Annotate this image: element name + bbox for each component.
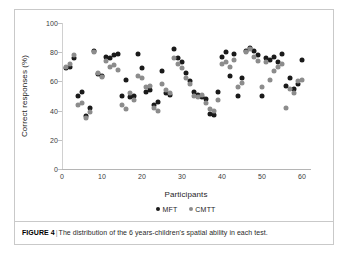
x-tick-label: 60 bbox=[298, 169, 306, 180]
scatter-point-mft bbox=[140, 66, 145, 71]
legend-dot-mft bbox=[156, 207, 160, 211]
scatter-point-cmtt bbox=[256, 58, 261, 63]
chart-legend: MFT CMTT bbox=[62, 205, 310, 213]
scatter-point-cmtt bbox=[156, 108, 161, 113]
scatter-point-cmtt bbox=[284, 105, 289, 110]
x-tick-label: 50 bbox=[258, 169, 266, 180]
scatter-point-cmtt bbox=[200, 92, 205, 97]
scatter-point-cmtt bbox=[204, 101, 209, 106]
scatter-point-cmtt bbox=[268, 77, 273, 82]
y-tick-mark bbox=[58, 81, 62, 82]
scatter-point-cmtt bbox=[172, 56, 177, 61]
x-tick-label: 10 bbox=[98, 169, 106, 180]
scatter-point-mft bbox=[224, 50, 229, 55]
scatter-point-cmtt bbox=[236, 85, 241, 90]
figure-caption: FIGURE 4|The distribution of the 6 years… bbox=[22, 228, 328, 238]
x-axis-label: Participants bbox=[62, 190, 310, 199]
scatter-point-mft bbox=[172, 47, 177, 52]
scatter-point-mft bbox=[156, 99, 161, 104]
scatter-point-cmtt bbox=[280, 61, 285, 66]
scatter-point-mft bbox=[148, 88, 153, 93]
legend-item-cmtt: CMTT bbox=[189, 205, 215, 213]
scatter-point-mft bbox=[236, 94, 241, 99]
scatter-point-cmtt bbox=[260, 85, 265, 90]
scatter-point-cmtt bbox=[240, 80, 245, 85]
figure-container: Correct responses (%) Participants 02040… bbox=[0, 0, 348, 260]
scatter-point-cmtt bbox=[88, 110, 93, 115]
x-tick-label: 20 bbox=[138, 169, 146, 180]
caption-label: FIGURE 4 bbox=[22, 229, 55, 236]
scatter-point-cmtt bbox=[184, 76, 189, 81]
scatter-point-mft bbox=[228, 73, 233, 78]
scatter-point-cmtt bbox=[300, 77, 305, 82]
scatter-point-mft bbox=[232, 51, 237, 56]
scatter-point-mft bbox=[216, 89, 221, 94]
scatter-point-mft bbox=[120, 94, 125, 99]
x-tick-label: 40 bbox=[218, 169, 226, 180]
scatter-point-cmtt bbox=[148, 83, 153, 88]
scatter-point-mft bbox=[136, 51, 141, 56]
y-tick-mark bbox=[58, 140, 62, 141]
scatter-point-cmtt bbox=[264, 60, 269, 65]
y-tick-mark bbox=[58, 111, 62, 112]
scatter-point-cmtt bbox=[248, 47, 253, 52]
scatter-point-cmtt bbox=[68, 61, 73, 66]
x-tick-label: 30 bbox=[178, 169, 186, 180]
scatter-point-cmtt bbox=[168, 91, 173, 96]
scatter-point-mft bbox=[272, 54, 277, 59]
scatter-point-cmtt bbox=[212, 108, 217, 113]
scatter-point-cmtt bbox=[124, 107, 129, 112]
scatter-point-mft bbox=[160, 69, 165, 74]
scatter-point-cmtt bbox=[128, 91, 133, 96]
legend-dot-cmtt bbox=[189, 207, 193, 211]
scatter-point-mft bbox=[80, 89, 85, 94]
scatter-point-cmtt bbox=[228, 64, 233, 69]
scatter-point-mft bbox=[212, 112, 217, 117]
y-axis-label: Correct responses (%) bbox=[20, 23, 32, 169]
scatter-point-cmtt bbox=[132, 98, 137, 103]
scatter-point-cmtt bbox=[92, 50, 97, 55]
scatter-point-cmtt bbox=[232, 57, 237, 62]
scatter-point-mft bbox=[220, 54, 225, 59]
scatter-point-mft bbox=[124, 77, 129, 82]
scatter-point-mft bbox=[300, 57, 305, 62]
scatter-point-cmtt bbox=[140, 76, 145, 81]
scatter-point-cmtt bbox=[72, 53, 77, 58]
caption-text: The distribution of the 6 years-children… bbox=[59, 229, 268, 236]
scatter-point-mft bbox=[260, 94, 265, 99]
scatter-point-cmtt bbox=[80, 101, 85, 106]
scatter-point-cmtt bbox=[180, 66, 185, 71]
y-tick-mark bbox=[58, 52, 62, 53]
scatter-point-cmtt bbox=[216, 98, 221, 103]
chart-area: Correct responses (%) Participants 02040… bbox=[14, 9, 334, 214]
scatter-point-mft bbox=[116, 51, 121, 56]
scatter-point-cmtt bbox=[272, 69, 277, 74]
caption-divider bbox=[14, 221, 334, 222]
scatter-point-cmtt bbox=[100, 75, 105, 80]
scatter-point-mft bbox=[184, 70, 189, 75]
y-tick-mark bbox=[58, 23, 62, 24]
scatter-point-mft bbox=[76, 94, 81, 99]
legend-label-cmtt: CMTT bbox=[195, 206, 215, 213]
scatter-point-mft bbox=[288, 76, 293, 81]
scatter-point-cmtt bbox=[188, 82, 193, 87]
scatter-point-cmtt bbox=[292, 91, 297, 96]
scatter-point-cmtt bbox=[116, 67, 121, 72]
scatter-point-cmtt bbox=[160, 82, 165, 87]
scatter-point-mft bbox=[280, 51, 285, 56]
plot-region: 020406080100 0102030405060 bbox=[62, 23, 310, 169]
x-tick-label: 0 bbox=[60, 169, 64, 180]
scatter-point-cmtt bbox=[84, 115, 89, 120]
legend-label-mft: MFT bbox=[162, 206, 177, 213]
scatter-point-cmtt bbox=[104, 58, 109, 63]
legend-item-mft: MFT bbox=[156, 205, 177, 213]
